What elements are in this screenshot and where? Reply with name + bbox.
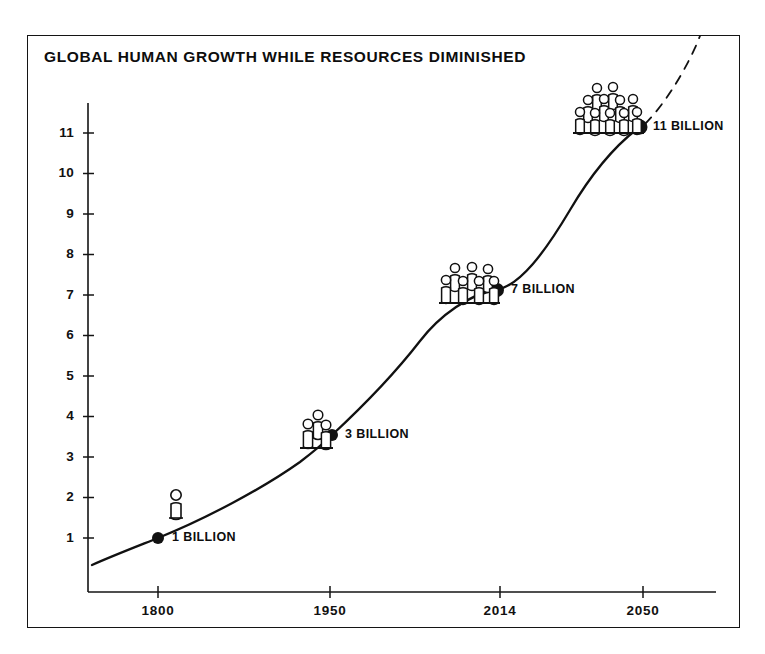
y-tick-label-10: 10 <box>44 165 74 180</box>
chart-figure: GLOBAL HUMAN GROWTH WHILE RESOURCES DIMI… <box>0 0 765 654</box>
annotation-1-billion: 1 BILLION <box>172 530 236 544</box>
y-tick-label-4: 4 <box>44 408 74 423</box>
chart-frame <box>27 35 740 628</box>
x-tick-label-2014: 2014 <box>465 603 535 618</box>
annotation-3-billion: 3 BILLION <box>345 427 409 441</box>
y-tick-label-7: 7 <box>44 287 74 302</box>
y-tick-label-9: 9 <box>44 206 74 221</box>
y-tick-label-6: 6 <box>44 327 74 342</box>
y-tick-label-3: 3 <box>44 449 74 464</box>
x-tick-label-1800: 1800 <box>123 603 193 618</box>
annotation-11-billion: 11 BILLION <box>653 119 724 133</box>
y-tick-label-8: 8 <box>44 246 74 261</box>
annotation-7-billion: 7 BILLION <box>511 282 575 296</box>
y-tick-label-5: 5 <box>44 368 74 383</box>
y-tick-label-11: 11 <box>44 125 74 140</box>
x-tick-label-1950: 1950 <box>295 603 365 618</box>
y-tick-label-2: 2 <box>44 489 74 504</box>
chart-title: GLOBAL HUMAN GROWTH WHILE RESOURCES DIMI… <box>44 48 526 66</box>
x-tick-label-2050: 2050 <box>608 603 678 618</box>
y-tick-label-1: 1 <box>44 530 74 545</box>
